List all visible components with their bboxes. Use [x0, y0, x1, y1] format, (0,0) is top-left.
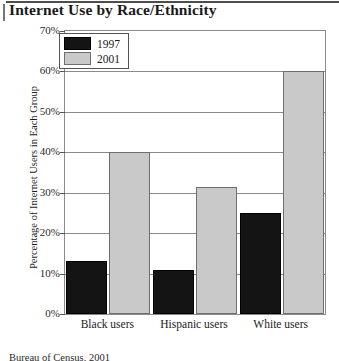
y-axis-tick	[60, 112, 65, 113]
y-axis-tick	[60, 193, 65, 194]
legend-swatch-1997	[64, 37, 91, 50]
y-axis-tick-label: 0%	[14, 307, 60, 319]
legend-swatch-2001	[64, 52, 91, 65]
x-axis-tick-label: Hispanic users	[160, 318, 227, 330]
bar-white-users-1997	[240, 213, 281, 314]
y-axis-tick-label: 10%	[14, 267, 60, 279]
title-left-rule	[3, 4, 5, 21]
y-axis-tick	[60, 314, 65, 315]
source-note: Bureau of Census, 2001	[9, 352, 110, 361]
chart-legend: 19972001	[59, 33, 129, 69]
legend-item-2001: 2001	[64, 52, 120, 65]
legend-label-2001: 2001	[97, 53, 120, 65]
x-axis-tick-label: White users	[253, 318, 308, 330]
legend-label-1997: 1997	[97, 38, 120, 50]
bar-black-users-2001	[109, 152, 150, 314]
y-axis-tick	[60, 233, 65, 234]
y-axis-tick-label: 50%	[14, 105, 60, 117]
bar-hispanic-users-2001	[196, 187, 237, 314]
y-axis-tick	[60, 152, 65, 153]
x-axis-tick-label: Black users	[81, 318, 134, 330]
bar-black-users-1997	[66, 261, 107, 314]
plot-area	[64, 30, 326, 315]
y-axis-tick-labels: 0%10%20%30%40%50%60%70%	[12, 30, 60, 315]
y-axis-tick-label: 60%	[14, 64, 60, 76]
y-axis-tick	[60, 71, 65, 72]
bar-white-users-2001	[283, 71, 324, 314]
legend-item-1997: 1997	[64, 37, 120, 50]
y-axis-tick	[60, 274, 65, 275]
x-axis-tick-labels: Black usersHispanic usersWhite users	[64, 318, 326, 338]
y-axis-tick-label: 20%	[14, 226, 60, 238]
y-axis-tick-label: 30%	[14, 186, 60, 198]
page-title: Internet Use by Race/Ethnicity	[9, 1, 217, 19]
bar-hispanic-users-1997	[153, 270, 194, 314]
y-axis-tick-label: 70%	[14, 24, 60, 36]
y-axis-tick	[60, 31, 65, 32]
y-axis-tick-label: 40%	[14, 145, 60, 157]
